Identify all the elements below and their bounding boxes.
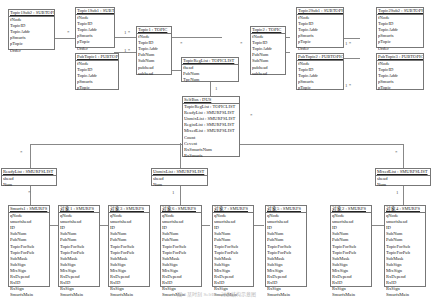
box-title: 对象6 : SMURFS: [161, 206, 201, 213]
multiplicity: *: [20, 150, 23, 155]
multiplicity: *: [240, 41, 243, 46]
smurfs-box[interactable]: 对象3 : SMURFSqNodesmurfsheadIDSubNumPubNu…: [108, 205, 150, 287]
box-title: Topic1Sub1 : SUBTOPIC: [76, 8, 114, 15]
multiplicity: *: [395, 150, 398, 155]
box-title: PubTopic2 : PUBTOPIC: [297, 54, 343, 61]
box-title: PubTopic3 : PUBTOPIC: [377, 54, 423, 61]
smurfs-box[interactable]: 对象7 : SMURFSqNodesmurfsheadIDSubNumPubNu…: [212, 205, 254, 287]
attr: Order: [298, 46, 342, 52]
box-attrs: fNode TopicID TopicAddr pSmurfs pTopic: [76, 61, 118, 91]
box-attrs: shead Num: [2, 176, 56, 188]
multiplicity: 1 *: [124, 48, 130, 53]
box-title: MixedList : SMURFSLIST: [376, 169, 430, 176]
connector: [180, 143, 181, 168]
connector: [54, 38, 75, 39]
box-title: SelfBus : DUS: [183, 97, 239, 104]
multiplicity: *: [250, 113, 253, 118]
connector: [114, 37, 136, 38]
attr: subhead: [138, 71, 170, 77]
box-attrs: qNodesmurfsheadIDSubNumPubNumTopicForSub…: [109, 213, 149, 298]
box-title: Topic1Sub2 : SUBTOPIC: [9, 10, 54, 17]
box-title: 对象7 : SMURFS: [213, 206, 253, 213]
box-attrs: qNodesmurfsheadIDSubNumPubNumTopicForSub…: [385, 213, 425, 298]
box-title: 对象4 : SMURFS: [385, 206, 425, 213]
attr: pTopic: [298, 85, 342, 91]
box-attrs: shead Num: [152, 176, 207, 188]
box-title: Topic2Sub1 : SUBTOPIC: [297, 8, 343, 15]
box-attrs: fNode TopicID TopicAddr pSmurfs pTopic O…: [9, 17, 54, 54]
box-title: 对象2 : SMURFS: [331, 206, 371, 213]
box-title: 对象3 : SMURFS: [109, 206, 149, 213]
attr: Num: [3, 182, 55, 188]
topic1sub2-box[interactable]: Topic1Sub2 : SUBTOPIC fNode TopicID Topi…: [8, 9, 55, 50]
attr: pTopic: [378, 85, 422, 91]
mixedlist-box[interactable]: MixedList : SMURFSLIST shead Num: [375, 168, 431, 186]
multiplicity: *: [67, 30, 70, 35]
connector: [172, 37, 222, 38]
topic2-box[interactable]: Topic2 : TOPIC fNode TopicID TopicAddr P…: [250, 26, 286, 75]
multiplicity: 1: [172, 190, 175, 195]
box-title: 对象5 : SMURFS: [266, 206, 306, 213]
multiplicity: 1 *: [124, 30, 130, 35]
attr: Num: [377, 182, 429, 188]
figure-caption: 图 3 某时刻 SelfBus 对象结构示意图: [0, 290, 433, 297]
box-attrs: qNodesmurfsheadIDSubNumPubNumTopicForSub…: [213, 213, 253, 298]
readylist-box[interactable]: ReadyList : SMURFSLIST shead Num: [1, 168, 57, 186]
pubtopic2-box[interactable]: PubTopic2 : PUBTOPIC fNode TopicID Topic…: [296, 53, 344, 90]
box-attrs: qNodesmurfsheadIDSubNumPubNumTopicForSub…: [161, 213, 201, 298]
box-title: TopicRegList : TOPICLIST: [182, 58, 238, 65]
box-attrs: qNodesmurfsheadIDSubNumPubNumTopicForSub…: [331, 213, 371, 298]
box-title: ReadyList : SMURFSLIST: [2, 169, 56, 176]
attr: Order: [10, 48, 53, 54]
smurfs-box[interactable]: 对象4 : SMURFSqNodesmurfsheadIDSubNumPubNu…: [384, 205, 426, 287]
connector: [403, 144, 404, 169]
multiplicity: 1: [396, 190, 399, 195]
topic2sub2-box[interactable]: Topic2Sub2 : SUBTOPIC fNode TopicID Topi…: [376, 7, 424, 48]
box-title: 对象1 : SMURFS: [59, 206, 99, 213]
box-attrs: qNodesmurfsheadIDSubNumPubNumTopicForSub…: [9, 213, 49, 298]
box-attrs: fNode TopicID TopicAddr pSmurfs pTopic O…: [377, 15, 423, 52]
box-attrs: fNode TopicID TopicAddr PubNum SubNum pu…: [137, 34, 171, 77]
box-title: UnmixList : SMURFSLIST: [152, 169, 207, 176]
box-attrs: qNodesmurfsheadIDSubNumPubNumTopicForSub…: [59, 213, 99, 298]
box-attrs: TopicRegList : TOPICLIST ReadyList : SMU…: [183, 104, 239, 159]
topicreglist-box[interactable]: TopicRegList : TOPICLIST fhead PubNum Tp…: [181, 57, 239, 82]
box-title: Topic1 : TOPIC: [137, 27, 171, 34]
attr: pTopic: [77, 85, 117, 91]
connector: [210, 82, 211, 96]
box-attrs: fNode TopicID TopicAddr pSmurfs pTopic: [377, 61, 423, 91]
box-attrs: fhead PubNum TpcNum: [182, 65, 238, 83]
unmixlist-box[interactable]: UnmixList : SMURFSLIST shead Num: [151, 168, 208, 186]
smurfs-box[interactable]: 对象1 : SMURFSqNodesmurfsheadIDSubNumPubNu…: [58, 205, 100, 287]
box-attrs: fNode TopicID TopicAddr pSmurfs pTopic O…: [297, 15, 343, 52]
box-title: PubTopic1 : PUBTOPIC: [76, 54, 118, 61]
box-attrs: fNode TopicID TopicAddr pSmurfs pTopic O…: [76, 15, 114, 52]
smurfs-box[interactable]: 对象6 : SMURFSqNodesmurfsheadIDSubNumPubNu…: [160, 205, 202, 287]
connector: [30, 144, 31, 169]
attr: MixedList : SMURFSLIST: [184, 128, 238, 134]
box-title: Smurfs1 : SMURFS: [9, 206, 49, 213]
attr: Order: [378, 46, 422, 52]
attr: Order: [77, 46, 113, 52]
multiplicity: 1: [215, 86, 218, 91]
multiplicity: 1 *: [345, 41, 351, 46]
attr: Num: [153, 182, 206, 188]
box-attrs: fNode TopicID TopicAddr PubNum SubNum pu…: [251, 34, 285, 77]
pubtopic3-box[interactable]: PubTopic3 : PUBTOPIC fNode TopicID Topic…: [376, 53, 424, 90]
pubtopic1-box[interactable]: PubTopic1 : PUBTOPIC fNode TopicID Topic…: [75, 53, 119, 90]
attr: TpcNum: [183, 77, 237, 83]
box-title: Topic2 : TOPIC: [251, 27, 285, 34]
multiplicity: *: [28, 190, 31, 195]
box-attrs: fNode TopicID TopicAddr pSmurfs pTopic: [297, 61, 343, 91]
connector: [372, 225, 384, 226]
smurfs-box[interactable]: 对象2 : SMURFSqNodesmurfsheadIDSubNumPubNu…: [330, 205, 372, 287]
topic1-box[interactable]: Topic1 : TOPIC fNode TopicID TopicAddr P…: [136, 26, 172, 75]
topic1sub1-box[interactable]: Topic1Sub1 : SUBTOPIC fNode TopicID Topi…: [75, 7, 115, 48]
smurfs-box[interactable]: 对象5 : SMURFSqNodesmurfsheadIDSubNumPubNu…: [265, 205, 307, 287]
multiplicity: *: [180, 41, 183, 46]
selfbus-box[interactable]: SelfBus : DUS TopicRegList : TOPICLIST R…: [182, 96, 240, 157]
box-attrs: shead Num: [376, 176, 430, 188]
box-title: Topic2Sub2 : SUBTOPIC: [377, 8, 423, 15]
topic2sub1-box[interactable]: Topic2Sub1 : SUBTOPIC fNode TopicID Topi…: [296, 7, 344, 48]
smurfs-box[interactable]: Smurfs1 : SMURFSqNodesmurfsheadIDSubNumP…: [8, 205, 50, 287]
